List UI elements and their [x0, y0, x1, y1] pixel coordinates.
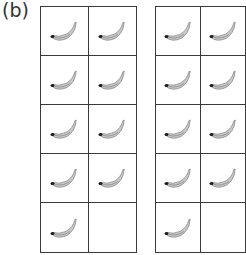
- cell-with-banana: [201, 154, 246, 203]
- cell-with-banana: [201, 7, 246, 56]
- banana-icon: [49, 217, 79, 241]
- banana-icon: [208, 20, 238, 44]
- cell-with-banana: [41, 154, 89, 203]
- banana-icon: [163, 167, 193, 191]
- cell-with-banana: [156, 7, 201, 56]
- banana-icon: [97, 118, 127, 142]
- banana-icon: [163, 69, 193, 93]
- banana-icon: [49, 167, 79, 191]
- empty-cell: [89, 203, 137, 252]
- banana-icon: [208, 118, 238, 142]
- banana-icon: [163, 118, 193, 142]
- cell-with-banana: [156, 56, 201, 105]
- banana-icon: [97, 20, 127, 44]
- banana-icon: [163, 20, 193, 44]
- banana-icon: [163, 217, 193, 241]
- cell-with-banana: [41, 105, 89, 154]
- banana-icon: [208, 69, 238, 93]
- cell-with-banana: [156, 203, 201, 252]
- cell-with-banana: [201, 105, 246, 154]
- cell-with-banana: [89, 56, 137, 105]
- part-label: (b): [2, 0, 29, 21]
- cell-with-banana: [156, 105, 201, 154]
- cell-with-banana: [89, 7, 137, 56]
- cell-with-banana: [41, 7, 89, 56]
- cell-with-banana: [89, 105, 137, 154]
- ten-frame-right: [155, 6, 246, 253]
- banana-icon: [97, 69, 127, 93]
- cell-with-banana: [201, 56, 246, 105]
- banana-icon: [49, 20, 79, 44]
- banana-icon: [49, 69, 79, 93]
- cell-with-banana: [41, 203, 89, 252]
- ten-frame-left: [40, 6, 137, 253]
- cell-with-banana: [156, 154, 201, 203]
- banana-icon: [208, 167, 238, 191]
- banana-icon: [49, 118, 79, 142]
- cell-with-banana: [41, 56, 89, 105]
- banana-icon: [97, 167, 127, 191]
- empty-cell: [201, 203, 246, 252]
- cell-with-banana: [89, 154, 137, 203]
